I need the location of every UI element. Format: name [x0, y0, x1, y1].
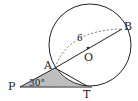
- label-t: T: [83, 89, 90, 100]
- circle-o: [49, 4, 131, 86]
- center-dot: [87, 47, 90, 50]
- label-b: B: [124, 21, 132, 32]
- label-a: A: [44, 60, 52, 71]
- length-label-6: 6: [77, 34, 83, 43]
- label-p: P: [8, 81, 15, 92]
- label-o: O: [84, 52, 93, 63]
- diagram: A B O P T 6 30°: [0, 0, 138, 101]
- geometry-figure: [0, 0, 138, 101]
- angle-label-30: 30°: [29, 79, 45, 88]
